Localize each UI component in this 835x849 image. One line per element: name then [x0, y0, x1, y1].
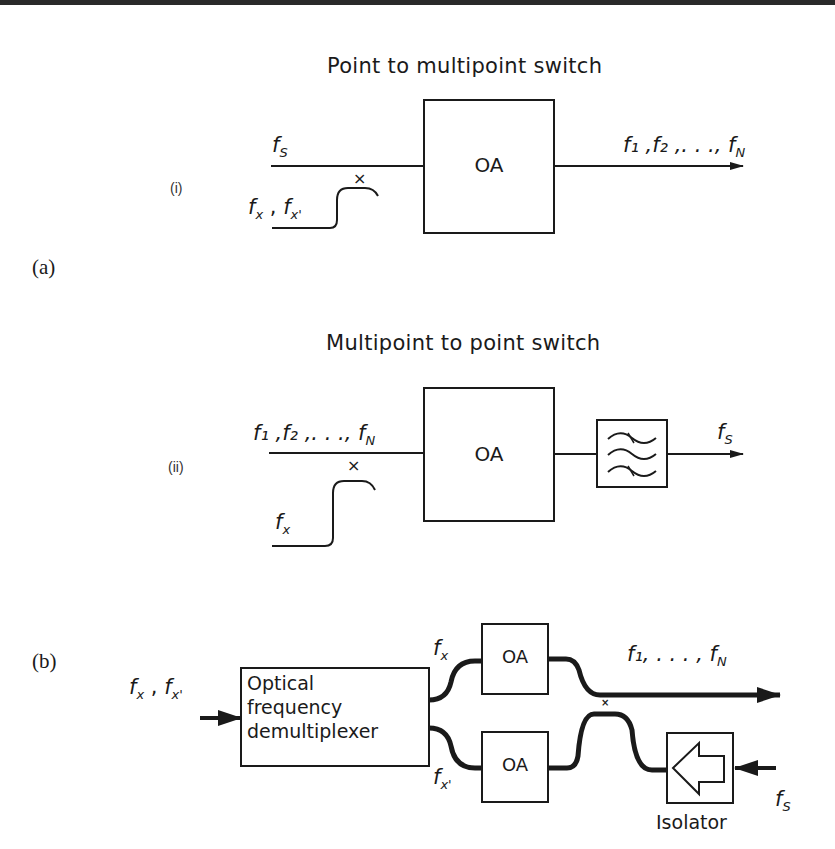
- diagram-a-ii-title: Multipoint to point switch: [326, 331, 600, 355]
- oa-label-a-i: OA: [424, 153, 554, 177]
- sub-label-i: (i): [170, 180, 182, 196]
- sub-label-ii: (ii): [168, 459, 184, 475]
- signal-fx-branch-bottom: fx': [433, 765, 452, 792]
- diagram-line-art: [0, 0, 835, 849]
- diagram-a-ii-lines: [269, 388, 743, 546]
- signal-fx-branch-top: fx: [433, 636, 448, 663]
- panel-label-a: (a): [32, 255, 55, 280]
- left-arrow-icon: [673, 743, 725, 795]
- signal-outputs-a-i: f₁ ,f₂ ,. . ., fN: [623, 133, 745, 160]
- diagram-a-i-title: Point to multipoint switch: [327, 54, 602, 78]
- signal-fx-a-i: fx , fx': [248, 195, 302, 222]
- coupler-mark-b: ×: [601, 697, 609, 708]
- coupler-mark-a-ii: ×: [347, 456, 360, 475]
- signal-inputs-b: fx , fx': [129, 675, 183, 702]
- oa-label-b-top: OA: [482, 646, 548, 667]
- signal-fs-a-ii: fS: [717, 420, 733, 447]
- oa-label-a-ii: OA: [424, 442, 554, 466]
- panel-label-b: (b): [32, 649, 57, 674]
- signal-fx-a-ii: fx: [275, 510, 290, 537]
- signal-fs-a-i: fS: [272, 133, 288, 160]
- demux-label: Optical frequency demultiplexer: [247, 671, 378, 743]
- signal-outputs-b: f₁, . . . , fN: [627, 642, 727, 669]
- signal-inputs-a-ii: f₁ ,f₂ ,. . ., fN: [253, 421, 375, 448]
- oa-label-b-bottom: OA: [482, 754, 548, 775]
- signal-fs-b: fS: [775, 787, 791, 814]
- coupler-mark-a-i: ×: [353, 169, 366, 188]
- bandpass-filter-icon: [597, 420, 667, 487]
- isolator-label: Isolator: [656, 811, 727, 833]
